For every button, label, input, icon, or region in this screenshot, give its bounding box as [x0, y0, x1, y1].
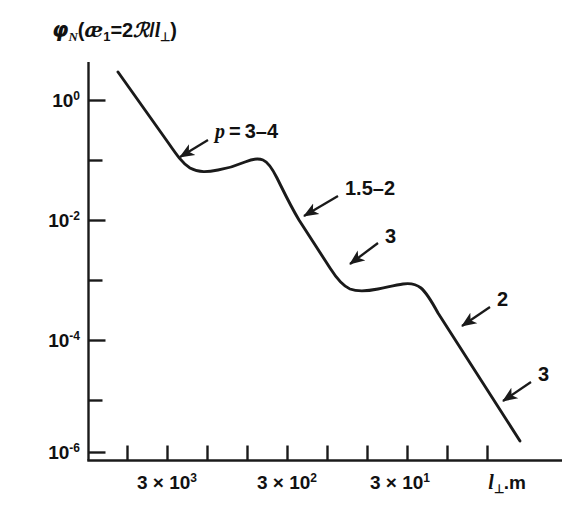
y-title-phi: φ — [52, 18, 68, 42]
annotation-label-slope-3-mid: 3 — [385, 226, 396, 246]
y-tick-label-1e-6-exp: -6 — [69, 441, 80, 455]
y-title-script-r: ℛ — [133, 18, 149, 42]
arrow-slope-2 — [462, 307, 490, 326]
annotation-label-slope-1p5-2: 1.5–2 — [345, 178, 395, 198]
x-tick-label-3e1-base: 3 × 10 — [370, 472, 423, 493]
x-tick-label-3e2: 3 × 102 — [257, 472, 317, 492]
y-tick-label-1e-4-base: 10 — [48, 330, 69, 351]
y-tick-label-1e-2-exp: -2 — [69, 209, 80, 223]
figure-root: φN(æ1=2ℛ/l⊥) 100 10-2 10-4 10-6 3 × 103 … — [0, 0, 583, 527]
x-title-perp: ⊥ — [494, 482, 504, 496]
arrow-slope-1p5-2 — [304, 196, 338, 216]
x-axis-title: l⊥.m — [488, 472, 526, 495]
y-tick-label-1e-6: 10-6 — [10, 442, 80, 462]
arrow-slope-3-end — [503, 382, 531, 401]
annotation-label-slope-p-3-4: p = 3–4 — [215, 121, 278, 141]
x-tick-label-3e3-base: 3 × 10 — [137, 472, 190, 493]
y-tick-label-1e-4: 10-4 — [10, 330, 80, 350]
annotation-p-symbol: p — [215, 120, 225, 142]
arrow-slope-3-mid — [350, 243, 378, 264]
y-title-sub-n: N — [68, 29, 77, 44]
y-title-open-paren: ( — [78, 19, 85, 41]
annotation-p-rest: = 3–4 — [225, 120, 278, 142]
annotation-label-slope-3-end: 3 — [538, 364, 549, 384]
y-tick-label-1e-2: 10-2 — [10, 210, 80, 230]
y-tick-label-1e-4-exp: -4 — [69, 329, 80, 343]
y-tick-label-1e0-base: 10 — [52, 90, 73, 111]
annotation-label-slope-2: 2 — [497, 289, 508, 309]
y-axis-title: φN(æ1=2ℛ/l⊥) — [52, 20, 177, 43]
y-tick-label-1e-6-base: 10 — [48, 442, 69, 463]
y-tick-label-1e-2-base: 10 — [48, 210, 69, 231]
x-tick-label-3e1: 3 × 101 — [370, 472, 430, 492]
arrow-slope-p-3-4 — [180, 140, 208, 157]
x-tick-label-3e2-exp: 2 — [310, 471, 317, 485]
x-tick-label-3e3-exp: 3 — [190, 471, 197, 485]
y-tick-label-1e0-exp: 0 — [73, 89, 80, 103]
y-title-close-paren: ) — [170, 19, 177, 41]
y-title-ash-symbol: æ — [85, 18, 104, 42]
x-tick-label-3e3: 3 × 103 — [137, 472, 197, 492]
y-title-perp: ⊥ — [160, 30, 170, 44]
y-tick-label-1e0: 100 — [10, 90, 80, 110]
x-tick-label-3e1-exp: 1 — [423, 471, 430, 485]
y-title-equals: = — [110, 19, 122, 41]
x-tick-label-3e2-base: 3 × 10 — [257, 472, 310, 493]
y-title-two: 2 — [122, 19, 133, 41]
x-title-unit: .m — [504, 472, 526, 493]
annotation-layer — [0, 0, 583, 527]
